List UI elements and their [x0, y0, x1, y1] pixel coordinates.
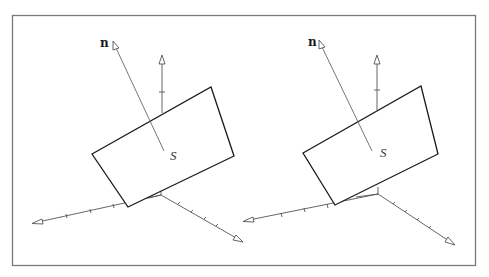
- right-axis-x: [249, 194, 378, 220]
- right-axis-y-arrow-icon: [445, 237, 455, 245]
- left-surface-plate: [92, 87, 234, 207]
- right-normal-arrow-icon: [319, 40, 325, 49]
- right-axis-y: [378, 194, 449, 241]
- right-surface-plate: [303, 86, 438, 205]
- right-axis-z-arrow-icon: [374, 55, 380, 64]
- right-axis-z: [374, 55, 380, 110]
- right-panel: n S: [243, 35, 455, 245]
- left-axis-x-arrow-icon: [32, 219, 43, 224]
- left-axis-z: [159, 55, 165, 113]
- left-axis-y: [161, 195, 238, 239]
- right-surface-label: S: [380, 145, 387, 160]
- left-surface-label: S: [170, 148, 177, 163]
- left-normal-label: n: [100, 36, 109, 50]
- left-panel: n S: [32, 36, 243, 242]
- stereo-surface-normal-diagram: n S: [0, 0, 489, 277]
- left-normal-arrow-icon: [113, 41, 119, 50]
- left-axis-z-arrow-icon: [159, 55, 165, 64]
- right-axis-x-arrow-icon: [243, 217, 254, 222]
- right-normal-label: n: [308, 35, 317, 49]
- left-axis-y-arrow-icon: [233, 235, 243, 242]
